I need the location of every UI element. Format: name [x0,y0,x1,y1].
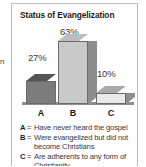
bar-c-top-face [96,86,126,93]
legend-equals-a: = [27,123,34,133]
legend-equals-c: = [27,152,34,162]
bar-b [58,34,88,104]
bar-a [26,74,56,104]
legend-key-c: C [20,152,27,162]
category-label-c: C [104,108,118,118]
value-label-c: 10% [97,68,115,79]
bar-b-front-face [58,41,88,104]
value-label-a: 27% [28,52,46,63]
category-axis: A B C [12,108,138,120]
bar-c [96,86,126,104]
legend-item-a: A = Have never heard the gospel [20,123,137,133]
legend-item-c: C = Are adherents to any form of Christi… [20,152,137,167]
category-label-a: A [34,108,48,118]
legend-text-a: Have never heard the gospel [34,123,127,133]
plot-area: 27% 63% 10% [12,24,138,110]
legend-equals-b: = [27,133,34,143]
legend-text-b: Were evangelized but did not become Chri… [34,133,137,152]
bar-a-front-face [26,81,56,104]
legend-key-b: B [20,133,27,143]
category-label-b: B [66,108,80,118]
legend-text-c: Are adherents to any form of Christianit… [34,152,137,167]
page-text-bleed: n [0,57,10,66]
bar-a-top-face [26,74,56,81]
chart-title: Status of Evangelization [20,10,114,20]
legend-key-a: A [20,123,27,133]
chart-figure: Status of Evangelization 27% 63% 10% A B… [11,3,138,166]
legend-item-b: B = Were evangelized but did not become … [20,133,137,152]
bar-c-front-face [96,93,126,104]
bar-b-top-face [58,34,88,41]
chart-legend: A = Have never heard the gospel B = Were… [20,123,137,166]
